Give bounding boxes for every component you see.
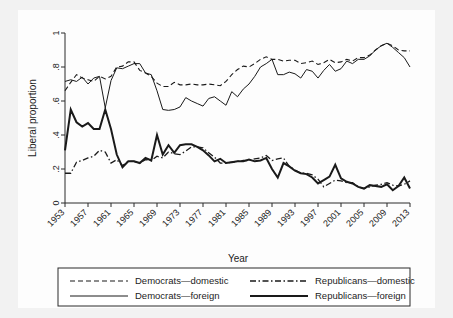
y-tick-label: .2 bbox=[51, 165, 61, 173]
x-tick-label: 2009 bbox=[367, 207, 388, 228]
x-tick-label: 1981 bbox=[206, 207, 227, 228]
x-tick-label: 1973 bbox=[160, 207, 181, 228]
figure-background: 0.2.4.6.81 19531957196119651969197319771… bbox=[0, 0, 453, 318]
series-line-democrats-domestic bbox=[65, 43, 410, 91]
x-tick-label: 1993 bbox=[275, 207, 296, 228]
x-tick-label: 2005 bbox=[344, 207, 365, 228]
data-series-group bbox=[65, 43, 410, 190]
x-tick-label: 2001 bbox=[321, 207, 342, 228]
chart-legend: Democrats—domesticRepublicans—domesticDe… bbox=[58, 268, 415, 306]
y-tick-label: .8 bbox=[51, 63, 61, 71]
x-tick-label: 1969 bbox=[137, 207, 158, 228]
y-axis-ticks: 0.2.4.6.81 bbox=[51, 30, 65, 205]
legend-label: Democrats—domestic bbox=[135, 275, 229, 286]
x-tick-label: 1997 bbox=[298, 207, 319, 228]
chart-canvas: 0.2.4.6.81 19531957196119651969197319771… bbox=[18, 10, 435, 308]
y-tick-label: .4 bbox=[51, 131, 61, 139]
x-tick-label: 1977 bbox=[183, 207, 204, 228]
x-tick-label: 1953 bbox=[45, 207, 66, 228]
y-tick-label: 1 bbox=[51, 30, 61, 35]
y-axis-title: Liberal proportion bbox=[27, 79, 38, 157]
x-tick-label: 1985 bbox=[229, 207, 250, 228]
legend-label: Democrats—foreign bbox=[135, 290, 219, 301]
x-tick-label: 1989 bbox=[252, 207, 273, 228]
legend-label: Republicans—foreign bbox=[315, 290, 406, 301]
x-tick-label: 1961 bbox=[91, 207, 112, 228]
legend-label: Republicans—domestic bbox=[315, 275, 415, 286]
series-line-democrats-foreign bbox=[65, 43, 410, 110]
x-axis-title: Year bbox=[228, 253, 249, 264]
line-chart: 0.2.4.6.81 19531957196119651969197319771… bbox=[18, 10, 435, 308]
y-tick-label: .6 bbox=[51, 97, 61, 105]
y-tick-label: 0 bbox=[51, 200, 61, 205]
x-axis-ticks: 1953195719611965196919731977198119851989… bbox=[45, 203, 411, 229]
series-line-republicans-foreign bbox=[65, 110, 410, 191]
x-tick-label: 2013 bbox=[390, 207, 411, 228]
x-tick-label: 1957 bbox=[68, 207, 89, 228]
x-tick-label: 1965 bbox=[114, 207, 135, 228]
